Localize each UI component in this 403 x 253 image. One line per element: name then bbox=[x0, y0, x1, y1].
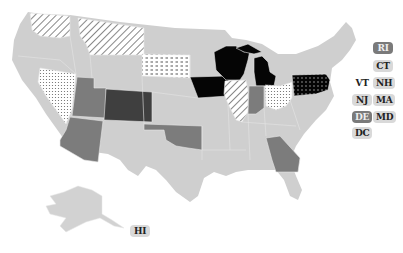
label-de[interactable]: DE bbox=[352, 111, 372, 123]
label-ri[interactable]: RI bbox=[373, 42, 393, 54]
label-nh[interactable]: NH bbox=[373, 77, 395, 89]
us-choropleth-map bbox=[0, 0, 403, 253]
label-vt[interactable]: VT bbox=[352, 77, 372, 89]
state-co[interactable] bbox=[104, 89, 152, 122]
label-dc[interactable]: DC bbox=[352, 127, 372, 139]
label-nj[interactable]: NJ bbox=[352, 94, 372, 106]
label-hi[interactable]: HI bbox=[130, 225, 150, 237]
state-in[interactable] bbox=[248, 86, 264, 114]
label-md[interactable]: MD bbox=[373, 111, 396, 123]
label-ma[interactable]: MA bbox=[373, 94, 395, 106]
state-sd[interactable] bbox=[142, 54, 190, 78]
state-ak[interactable] bbox=[46, 186, 124, 232]
label-ct[interactable]: CT bbox=[373, 60, 393, 72]
